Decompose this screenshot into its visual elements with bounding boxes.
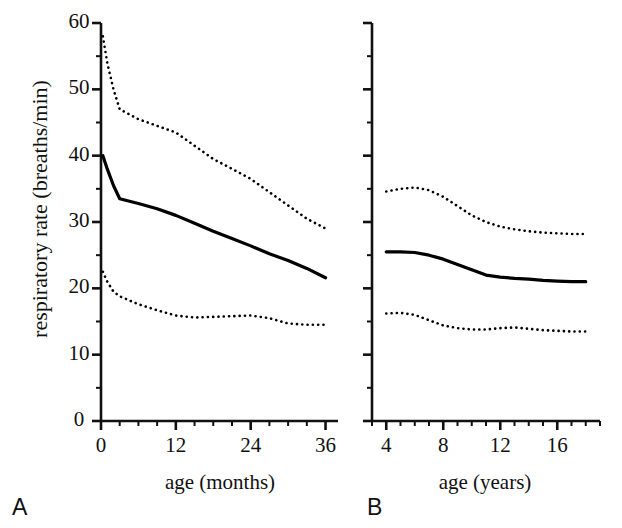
series-A-median bbox=[103, 156, 326, 278]
y-tick-label-60: 60 bbox=[59, 9, 99, 34]
x-tick-label-B-8: 8 bbox=[423, 433, 463, 458]
series-B-lower-percentile bbox=[386, 313, 586, 332]
x-tick-label-B-12: 12 bbox=[480, 433, 520, 458]
y-tick-label-30: 30 bbox=[59, 208, 99, 233]
y-tick-label-40: 40 bbox=[59, 142, 99, 167]
series-B-median bbox=[386, 252, 586, 282]
x-tick-label-B-4: 4 bbox=[366, 433, 406, 458]
x-tick-label-B-16: 16 bbox=[537, 433, 577, 458]
panel-b-letter: B bbox=[367, 494, 382, 521]
x-tick-label-A-36: 36 bbox=[306, 433, 346, 458]
panel-a-x-axis-label: age (months) bbox=[130, 470, 310, 495]
panel-a-letter: A bbox=[12, 494, 27, 521]
x-tick-label-A-0: 0 bbox=[81, 433, 121, 458]
figure-root: respiratory rate (breaths/min) age (mont… bbox=[0, 0, 622, 528]
x-tick-label-A-12: 12 bbox=[156, 433, 196, 458]
series-A-lower-percentile bbox=[103, 272, 326, 325]
x-tick-label-A-24: 24 bbox=[231, 433, 271, 458]
y-tick-label-50: 50 bbox=[59, 75, 99, 100]
series-A-upper-percentile bbox=[103, 36, 326, 228]
y-tick-label-0: 0 bbox=[59, 407, 99, 432]
series-B-upper-percentile bbox=[386, 188, 586, 234]
panel-b-x-axis-label: age (years) bbox=[400, 470, 570, 495]
y-tick-label-10: 10 bbox=[59, 341, 99, 366]
y-tick-label-20: 20 bbox=[59, 274, 99, 299]
